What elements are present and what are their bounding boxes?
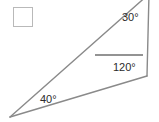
triangle-side-bottom	[10, 76, 147, 117]
angle-label-left: 40°	[40, 93, 57, 105]
diagram-canvas: 30° 120° 40°	[0, 0, 159, 122]
angle-label-bottom-right: 120°	[113, 61, 136, 73]
triangle-side-right-vertical	[147, 0, 149, 76]
angle-label-top: 30°	[122, 11, 139, 23]
